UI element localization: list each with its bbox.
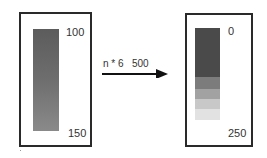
right-arrow-icon bbox=[102, 66, 170, 78]
output-gray-segment-5 bbox=[195, 109, 220, 120]
input-gray-bar bbox=[33, 29, 59, 131]
input-image-panel: 100 150 bbox=[19, 12, 92, 147]
output-top-value: 0 bbox=[228, 25, 234, 37]
scan-artifact bbox=[20, 150, 21, 151]
output-gray-bar bbox=[195, 28, 220, 120]
input-bottom-value: 150 bbox=[68, 127, 86, 139]
output-gray-segment-3 bbox=[195, 89, 220, 99]
output-gray-segment-4 bbox=[195, 99, 220, 109]
output-gray-segment-2 bbox=[195, 77, 220, 89]
output-image-panel: 0 250 bbox=[185, 13, 253, 147]
output-bottom-value: 250 bbox=[228, 127, 246, 139]
output-gray-segment-1 bbox=[195, 28, 220, 77]
input-top-value: 100 bbox=[66, 26, 84, 38]
